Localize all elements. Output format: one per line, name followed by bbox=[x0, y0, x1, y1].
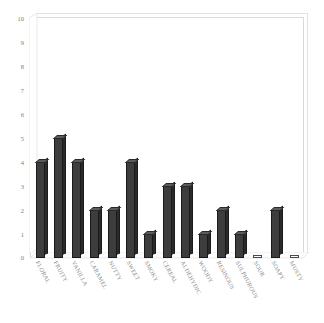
bar-side bbox=[81, 157, 84, 255]
bar-face bbox=[271, 210, 280, 258]
x-tick-slot: MUSTY bbox=[285, 259, 303, 323]
bar-slot bbox=[249, 18, 267, 258]
y-tick: 9 bbox=[21, 40, 24, 47]
bar-slot bbox=[67, 18, 85, 258]
bar-side bbox=[190, 181, 193, 255]
bar-slot bbox=[104, 18, 122, 258]
bar[interactable] bbox=[54, 138, 63, 258]
y-tick: 7 bbox=[21, 88, 24, 95]
bar-face bbox=[90, 210, 99, 258]
bar-side bbox=[45, 157, 48, 255]
x-tick-label: SWEET bbox=[125, 260, 140, 281]
x-tick-slot: ALDEHYDIC bbox=[176, 259, 194, 323]
bar-face bbox=[290, 255, 299, 258]
bar-chart: 10 9 8 7 6 5 4 3 2 1 0 FLORALFRUITYVANIL… bbox=[0, 0, 324, 323]
x-tick-slot: NUTTY bbox=[104, 259, 122, 323]
bar[interactable] bbox=[271, 210, 280, 258]
x-tick-slot: SMOKY bbox=[140, 259, 158, 323]
bar-slot bbox=[31, 18, 49, 258]
x-tick-slot: FLORAL bbox=[31, 259, 49, 323]
bar-face bbox=[36, 162, 45, 258]
bar[interactable] bbox=[199, 234, 208, 258]
bar-slot bbox=[140, 18, 158, 258]
bar-slot bbox=[194, 18, 212, 258]
bar[interactable] bbox=[235, 234, 244, 258]
bar-slot bbox=[122, 18, 140, 258]
y-tick: 10 bbox=[18, 16, 25, 23]
bar[interactable] bbox=[144, 234, 153, 258]
bar[interactable] bbox=[108, 210, 117, 258]
bar-slot bbox=[85, 18, 103, 258]
bar[interactable] bbox=[36, 162, 45, 258]
x-tick-slot: CARAMEL bbox=[85, 259, 103, 323]
x-tick-slot: CEREAL bbox=[158, 259, 176, 323]
bar-face bbox=[163, 186, 172, 258]
x-tick-slot: RESINOUS bbox=[212, 259, 230, 323]
x-tick-slot: SOUR bbox=[249, 259, 267, 323]
bar-slot bbox=[49, 18, 67, 258]
bar[interactable] bbox=[181, 186, 190, 258]
bar-side bbox=[280, 205, 283, 255]
bar-face bbox=[72, 162, 81, 258]
bar-side bbox=[63, 133, 66, 255]
x-tick-slot: WOODY bbox=[194, 259, 212, 323]
bar-side bbox=[135, 157, 138, 255]
y-tick: 3 bbox=[21, 184, 24, 191]
bar-side bbox=[226, 205, 229, 255]
bar[interactable] bbox=[72, 162, 81, 258]
y-tick: 4 bbox=[21, 160, 24, 167]
y-tick: 8 bbox=[21, 64, 24, 71]
bar-face bbox=[126, 162, 135, 258]
bar-side bbox=[99, 205, 102, 255]
bar[interactable] bbox=[126, 162, 135, 258]
y-tick: 0 bbox=[21, 255, 24, 262]
y-tick: 6 bbox=[21, 112, 24, 119]
bar-slot bbox=[212, 18, 230, 258]
bar-face bbox=[181, 186, 190, 258]
x-tick-label: SOUR bbox=[252, 260, 265, 278]
bar-slot bbox=[267, 18, 285, 258]
bar-face bbox=[253, 255, 262, 258]
bar-slot bbox=[176, 18, 194, 258]
bar-face bbox=[199, 234, 208, 258]
bar-side bbox=[172, 181, 175, 255]
x-tick-slot: VANILLA bbox=[67, 259, 85, 323]
y-axis: 10 9 8 7 6 5 4 3 2 1 0 bbox=[0, 0, 30, 323]
x-tick-slot: SOAPY bbox=[267, 259, 285, 323]
y-tick: 5 bbox=[21, 136, 24, 143]
y-tick: 1 bbox=[21, 232, 24, 239]
x-tick-label: NUTTY bbox=[107, 260, 122, 282]
bar[interactable] bbox=[163, 186, 172, 258]
bar-side bbox=[117, 205, 120, 255]
bar-face bbox=[144, 234, 153, 258]
bar-series bbox=[31, 18, 303, 258]
x-tick-label: MUSTY bbox=[289, 260, 305, 282]
plot-area bbox=[31, 18, 303, 258]
bar-slot bbox=[231, 18, 249, 258]
x-tick-slot: FRUITY bbox=[49, 259, 67, 323]
bar-slot bbox=[158, 18, 176, 258]
x-tick-slot: SWEET bbox=[122, 259, 140, 323]
y-tick: 2 bbox=[21, 208, 24, 215]
x-tick-label: SOAPY bbox=[271, 260, 286, 281]
bar[interactable] bbox=[217, 210, 226, 258]
bar-face bbox=[108, 210, 117, 258]
bar-face bbox=[217, 210, 226, 258]
bar[interactable] bbox=[90, 210, 99, 258]
bar-slot bbox=[285, 18, 303, 258]
x-tick-slot: SULPHUROUS bbox=[231, 259, 249, 323]
bar-face bbox=[235, 234, 244, 258]
bar-face bbox=[54, 138, 63, 258]
x-axis: FLORALFRUITYVANILLACARAMELNUTTYSWEETSMOK… bbox=[31, 259, 303, 323]
